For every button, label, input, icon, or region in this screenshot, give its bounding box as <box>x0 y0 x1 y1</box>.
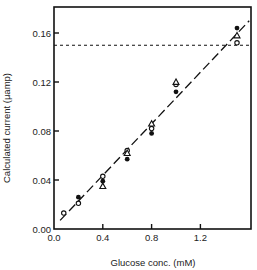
y-tick-label: 0.16 <box>33 28 52 39</box>
open-circle-marker <box>62 211 66 215</box>
open-circle-marker <box>149 126 153 130</box>
data-points <box>62 26 240 216</box>
x-tick-label: 0.8 <box>145 232 158 243</box>
x-tick-label: 0.4 <box>96 232 109 243</box>
y-tick-label: 0.08 <box>33 126 52 137</box>
x-axis-label: Glucose conc. (mM) <box>111 257 196 268</box>
y-tick-label: 0.12 <box>33 77 52 88</box>
open-triangle-marker <box>173 79 179 84</box>
open-triangle-marker <box>100 183 106 188</box>
x-axis-ticks: 0.00.40.81.2 <box>47 224 207 243</box>
chart: 0.00.40.81.2 0.000.040.080.120.16 Glucos… <box>0 0 257 270</box>
filled-circle-marker <box>149 131 154 136</box>
open-circle-marker <box>101 174 105 178</box>
open-circle-marker <box>76 201 80 205</box>
y-tick-label: 0.04 <box>33 175 52 186</box>
open-triangle-marker <box>234 32 240 37</box>
y-tick-label: 0.00 <box>33 224 52 235</box>
filled-circle-marker <box>235 26 240 31</box>
fit-line <box>60 21 249 221</box>
open-circle-marker <box>235 41 239 45</box>
filled-circle-marker <box>76 195 81 200</box>
y-axis-ticks: 0.000.040.080.120.16 <box>33 28 60 235</box>
y-axis-label: Calculated current (μamp) <box>1 73 12 183</box>
filled-circle-marker <box>174 89 179 94</box>
x-tick-label: 1.2 <box>194 232 207 243</box>
filled-circle-marker <box>125 157 130 162</box>
